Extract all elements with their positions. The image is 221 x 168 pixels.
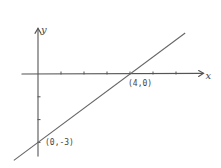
axes [22,28,204,156]
annotation-x-intercept: (4,0) [128,79,152,88]
chart-svg: x y (4,0) (0,-3) [0,0,221,168]
x-axis-label: x [206,70,212,81]
ticks [38,72,177,143]
annotation-y-intercept: (0,-3) [45,138,74,147]
y-axis-label: y [40,24,47,35]
